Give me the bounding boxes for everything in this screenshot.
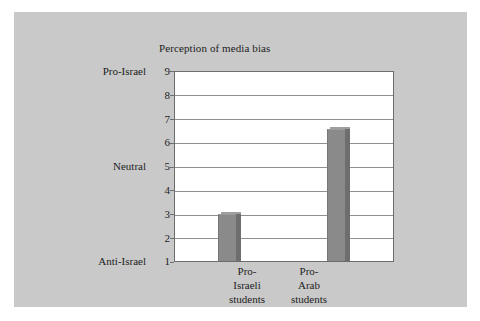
y-tick-label-9: 9: [154, 65, 170, 77]
gridline-8: [175, 95, 393, 96]
y-tick-label-6: 6: [154, 136, 170, 148]
gridline-6: [175, 143, 393, 144]
category-label-2-line-1: Pro-: [266, 264, 352, 278]
gridline-5: [175, 167, 393, 168]
category-label-2-line-3: students: [266, 292, 352, 306]
category-label-2-line-2: Arab: [266, 278, 352, 292]
y-tick-label-8: 8: [154, 89, 170, 101]
chart-screenshot: Perception of media bias 9 8 7 6 5 4 3 2…: [0, 0, 480, 321]
y-tick-label-1: 1: [154, 255, 170, 267]
gridline-3: [175, 215, 393, 216]
bar-front-face-2: [327, 129, 345, 261]
bar-front-face-1: [218, 214, 236, 261]
y-tick-label-4: 4: [154, 184, 170, 196]
plot-area: [174, 71, 394, 262]
y-tick-label-3: 3: [154, 208, 170, 220]
gridline-7: [175, 119, 393, 120]
y-tick-label-7: 7: [154, 113, 170, 125]
y-anchor-anti-israel: Anti-Israel: [46, 255, 146, 267]
y-tick-mark-1: [170, 262, 174, 263]
category-label-pro-arab-students: Pro- Arab students: [266, 264, 352, 306]
gridline-2: [175, 238, 393, 239]
y-tick-label-5: 5: [154, 160, 170, 172]
gridline-4: [175, 191, 393, 192]
y-anchor-pro-israel: Pro-Israel: [46, 65, 146, 77]
y-tick-label-2: 2: [154, 232, 170, 244]
figure-panel: Perception of media bias 9 8 7 6 5 4 3 2…: [14, 12, 467, 307]
chart-title: Perception of media bias: [159, 42, 270, 54]
y-anchor-neutral: Neutral: [46, 160, 146, 172]
